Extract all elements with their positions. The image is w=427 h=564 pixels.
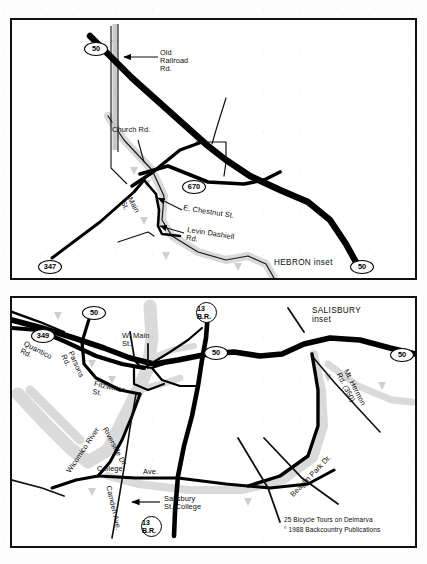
shield-us50-southeast[interactable]: 50 <box>350 260 374 274</box>
hebron-route-md347 <box>52 180 144 258</box>
shield-label: 50 <box>90 309 98 316</box>
credit-line-publisher: ° 1988 Backcountry Publications <box>284 526 380 534</box>
map-page: Old Railroad Rd. Church Rd. Main St. E. … <box>0 0 427 564</box>
shield-us50-midtown[interactable]: 50 <box>204 346 228 360</box>
hebron-old-railroad-corridor <box>111 24 127 184</box>
shield-label: 349 <box>37 332 49 339</box>
shield-label: 50 <box>212 349 220 356</box>
salisbury-inset-panel: Quantico Rd. Parsons Rd. W. Main St. Fit… <box>10 296 417 548</box>
shield-label: 13 B.R. <box>197 305 216 320</box>
shield-us50-northwest[interactable]: 50 <box>84 42 108 56</box>
label-salisbury-state-college: Salisbury St. College <box>164 495 201 511</box>
label-old-railroad-rd: Old Railroad Rd. <box>160 49 188 74</box>
label-w-main-st: W. Main St. <box>122 332 149 348</box>
shield-13-br-north[interactable]: 13 B.R. <box>196 302 217 323</box>
shield-label: 347 <box>44 263 56 270</box>
label-church-rd: Church Rd. <box>112 126 150 134</box>
salisbury-svg <box>12 298 415 546</box>
salisbury-map-graphics <box>12 298 415 546</box>
shield-md347[interactable]: 347 <box>38 260 62 274</box>
shield-label: 50 <box>358 263 366 270</box>
shield-md349[interactable]: 349 <box>31 329 55 343</box>
hebron-inset-title: HEBRON inset <box>274 258 333 267</box>
shield-label: 13 B.R. <box>142 519 161 534</box>
shield-md670[interactable]: 670 <box>182 180 206 194</box>
shield-label: 50 <box>398 351 406 358</box>
hebron-inset-panel: Old Railroad Rd. Church Rd. Main St. E. … <box>10 18 417 280</box>
salisbury-inset-title: SALISBURY inset <box>312 306 361 324</box>
shield-label: 670 <box>188 183 200 190</box>
shield-13-br-south[interactable]: 13 B.R. <box>141 516 162 537</box>
label-college-ave-left: College <box>97 465 123 473</box>
label-college-ave-right: Ave. <box>143 468 158 476</box>
shield-us50-east[interactable]: 50 <box>390 348 414 362</box>
shield-label: 50 <box>92 45 100 52</box>
credit-line-title: 25 Bicycle Tours on Delmarva <box>284 516 373 524</box>
shield-us50-northwest-2[interactable]: 50 <box>82 306 106 320</box>
